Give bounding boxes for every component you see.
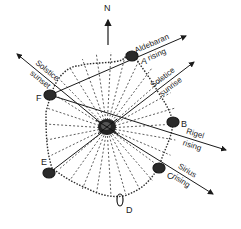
cairn-e [43, 168, 55, 178]
spoke [47, 108, 107, 128]
solstice-sunset-line [17, 54, 107, 128]
cairn-b [167, 117, 179, 127]
cairn-label-d: D [126, 206, 133, 215]
cairn-f [44, 90, 56, 100]
spoke [82, 128, 107, 189]
cairn-label-b: B [181, 120, 187, 129]
spoke [107, 52, 111, 128]
spoke [70, 128, 107, 180]
medicine-wheel-diagram: N ABCDEF AldebaranrisingSolsticesunsetSo… [0, 0, 241, 229]
cairn-label-f: F [36, 94, 42, 103]
spoke [96, 128, 107, 194]
north-label: N [104, 4, 111, 13]
spoke [52, 128, 108, 155]
spoke [107, 128, 111, 196]
spoke [107, 128, 163, 169]
spoke [107, 108, 175, 128]
spoke [70, 68, 107, 128]
diagram-canvas [0, 0, 241, 229]
spoke [107, 128, 140, 189]
spoke [107, 128, 152, 180]
spoke [107, 124, 177, 128]
spoke [96, 54, 107, 128]
spoke [59, 79, 107, 128]
spoke [47, 128, 107, 140]
spoke [107, 68, 152, 128]
cairn-c [153, 163, 165, 173]
rigel-rising-line [50, 95, 226, 150]
cairn-label-a: A [141, 57, 147, 66]
spoke [107, 128, 171, 155]
cairn-label-e: E [41, 158, 47, 167]
